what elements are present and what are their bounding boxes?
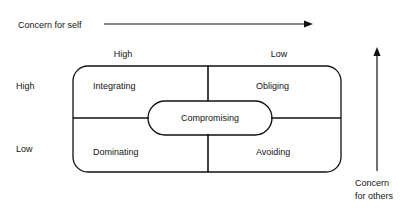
diagram-canvas: Concern for self High Low High Low <box>0 0 418 212</box>
horizontal-axis-label: Concern for self <box>18 20 82 30</box>
row-tick-high: High <box>16 81 35 91</box>
center-pill-label: Compromising <box>181 113 239 123</box>
vertical-axis-label-line2: for others <box>355 191 394 201</box>
vertical-axis-arrowhead <box>373 47 380 56</box>
row-tick-labels: High Low <box>16 81 35 154</box>
column-tick-low: Low <box>271 49 288 59</box>
vertical-axis-label-line1: Concern <box>355 178 389 188</box>
quadrant-label-obliging: Obliging <box>256 81 289 91</box>
row-tick-low: Low <box>16 144 33 154</box>
vertical-axis-group: Concern for others <box>355 47 394 201</box>
horizontal-axis-arrowhead <box>304 20 313 27</box>
column-tick-high: High <box>114 49 133 59</box>
column-tick-labels: High Low <box>114 49 288 59</box>
dual-concern-diagram: Concern for self High Low High Low <box>0 0 418 212</box>
quadrant-label-dominating: Dominating <box>93 147 139 157</box>
horizontal-axis-group: Concern for self <box>18 20 313 30</box>
quadrant-label-integrating: Integrating <box>93 81 136 91</box>
quadrant-label-avoiding: Avoiding <box>256 147 290 157</box>
